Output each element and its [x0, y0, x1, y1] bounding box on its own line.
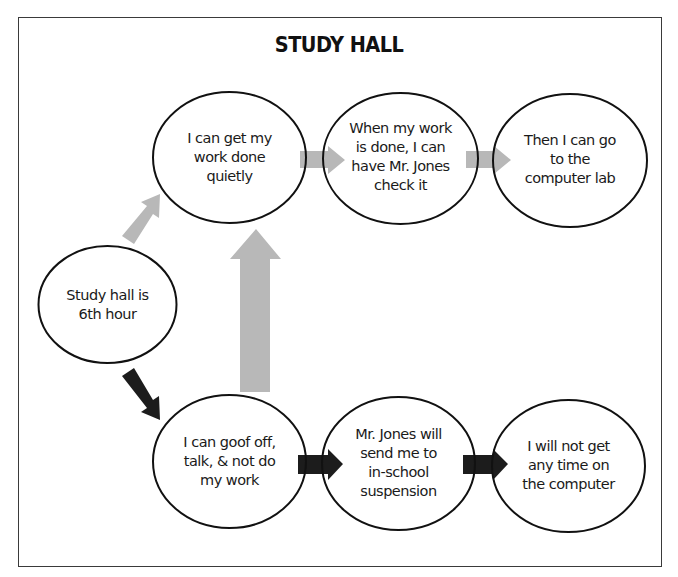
node-top-3-label: Then I can go to the computer lab: [500, 114, 640, 204]
node-bottom-3-label: I will not get any time on the computer: [499, 420, 638, 510]
node-bottom-1-label: I can goof off, talk, & not do my work: [160, 416, 299, 506]
node-top-2-label: When my work is done, I can have Mr. Jon…: [330, 112, 471, 202]
arrow-start-to-bottom-1: [122, 368, 160, 420]
node-start-label: Study hall is 6th hour: [42, 260, 173, 350]
arrow-start-to-top-1: [122, 194, 160, 244]
arrow-bottom-1-to-top-1: [230, 229, 281, 392]
node-top-1-label: I can get my work done quietly: [160, 112, 299, 202]
node-bottom-2-label: Mr. Jones will send me to in-school susp…: [329, 418, 468, 508]
